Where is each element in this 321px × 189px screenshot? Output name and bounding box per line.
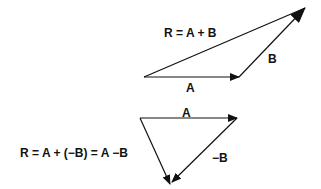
label-neg-b-bottom: −B (212, 151, 228, 165)
vector-b-top (239, 8, 305, 77)
label-a-top: A (186, 81, 195, 95)
equation-top: R = A + B (164, 26, 217, 40)
bottom-diagram: R = A + (−B) = A −B A −B (20, 106, 237, 184)
label-a-bottom: A (182, 106, 191, 120)
label-b-top: B (268, 52, 277, 66)
equation-bottom: R = A + (−B) = A −B (20, 146, 128, 160)
vector-neg-b-bottom (172, 118, 237, 182)
vector-r-bottom (140, 118, 170, 184)
vector-r-top (144, 8, 305, 77)
vector-diagram: R = A + B A B R = A + (−B) = A −B A −B (0, 0, 321, 189)
top-diagram: R = A + B A B (144, 8, 305, 95)
